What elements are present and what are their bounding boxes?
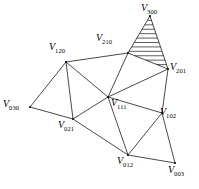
vertex-label-subscript: 300 — [147, 8, 157, 15]
edge-v210-v111 — [108, 53, 128, 97]
edge-v300-v210 — [128, 16, 150, 53]
edge-v102-v003 — [162, 113, 175, 163]
vertex-dot-v210 — [127, 52, 129, 54]
edge-v120-v111 — [66, 62, 108, 97]
vertex-dot-v120 — [65, 61, 67, 63]
vertex-label-v210: V210 — [96, 33, 112, 46]
vertex-label-subscript: 111 — [117, 103, 127, 110]
vertex-label-subscript: 003 — [174, 170, 184, 177]
vertex-label-subscript: 030 — [9, 104, 19, 111]
edge-v210-v120 — [66, 53, 128, 62]
vertex-dot-v003 — [174, 162, 176, 164]
vertex-label-subscript: 021 — [64, 125, 74, 132]
edge-v120-v030 — [30, 62, 66, 107]
edge-v030-v021 — [30, 107, 73, 119]
vertex-label-v012: V012 — [117, 156, 133, 169]
edge-v012-v003 — [128, 155, 175, 163]
vertex-label-v111: V111 — [111, 98, 127, 111]
edge-v021-v111 — [73, 97, 108, 119]
vertex-label-subscript: 210 — [102, 38, 112, 45]
edge-v012-v102 — [128, 113, 162, 155]
triangulation-diagram — [0, 0, 199, 189]
vertex-label-v300: V300 — [141, 3, 157, 16]
edge-v120-v021 — [66, 62, 73, 119]
vertex-label-v201: V201 — [170, 62, 186, 75]
vertex-label-v003: V003 — [168, 165, 184, 178]
vertex-label-subscript: 102 — [166, 112, 176, 119]
edge-v021-v012 — [73, 119, 128, 155]
edge-v201-v111 — [108, 69, 168, 97]
vertex-label-v021: V021 — [58, 120, 74, 133]
vertex-label-subscript: 120 — [55, 47, 65, 54]
figure-root: V300V210V201V120V111V102V030V021V012V003 — [0, 0, 199, 189]
vertex-dot-v030 — [29, 106, 31, 108]
vertex-label-subscript: 201 — [176, 67, 186, 74]
vertex-dot-v111 — [107, 96, 109, 98]
vertex-label-v102: V102 — [160, 107, 176, 120]
vertex-label-v030: V030 — [3, 99, 19, 112]
vertex-label-v120: V120 — [49, 42, 65, 55]
vertex-dot-v201 — [167, 68, 169, 70]
vertex-label-subscript: 012 — [123, 161, 133, 168]
